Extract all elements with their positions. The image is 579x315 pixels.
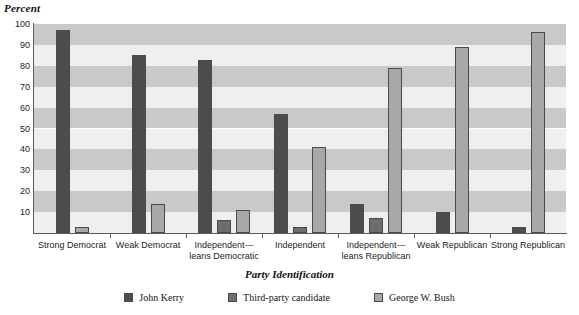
x-axis-tick bbox=[110, 233, 111, 238]
category-label-line: leans Democratic bbox=[178, 251, 270, 262]
bar bbox=[198, 60, 212, 233]
category-label-line: Strong Republican bbox=[482, 240, 574, 251]
bar bbox=[455, 47, 469, 233]
x-axis-tick bbox=[338, 233, 339, 238]
y-axis-tick-label: 90 bbox=[20, 40, 30, 50]
x-axis-tick bbox=[490, 233, 491, 238]
x-axis-tick bbox=[414, 233, 415, 238]
y-axis-title: Percent bbox=[4, 2, 40, 14]
bar bbox=[217, 220, 231, 233]
bar-group bbox=[110, 24, 186, 233]
y-axis-tick-label: 70 bbox=[20, 82, 30, 92]
y-axis-tick-label: 60 bbox=[20, 103, 30, 113]
y-axis-tick-label: 10 bbox=[20, 207, 30, 217]
bar bbox=[388, 68, 402, 233]
plot-area: 102030405060708090100 bbox=[34, 24, 566, 233]
legend-label: George W. Bush bbox=[389, 292, 455, 303]
legend-item: George W. Bush bbox=[374, 292, 455, 303]
x-axis-tick bbox=[186, 233, 187, 238]
bar bbox=[350, 204, 364, 233]
legend-swatch-icon bbox=[228, 293, 237, 302]
y-axis-tick-label: 50 bbox=[20, 124, 30, 134]
legend-item: Third-party candidate bbox=[228, 292, 330, 303]
bar bbox=[531, 32, 545, 233]
bar bbox=[132, 55, 146, 233]
bar bbox=[436, 212, 450, 233]
y-axis-tick-label: 20 bbox=[20, 186, 30, 196]
legend-item: John Kerry bbox=[124, 292, 184, 303]
x-axis-title: Party Identification bbox=[0, 268, 579, 280]
legend-swatch-icon bbox=[374, 293, 383, 302]
chart-figure: Percent 102030405060708090100 Party Iden… bbox=[0, 0, 579, 315]
bar-group bbox=[414, 24, 490, 233]
bar-group bbox=[262, 24, 338, 233]
x-axis-line bbox=[33, 233, 567, 234]
bar-group bbox=[34, 24, 110, 233]
legend-swatch-icon bbox=[124, 293, 133, 302]
bar-group bbox=[186, 24, 262, 233]
category-label: Strong Republican bbox=[482, 240, 574, 251]
bar bbox=[312, 147, 326, 233]
bar bbox=[236, 210, 250, 233]
bar-group bbox=[338, 24, 414, 233]
y-axis-line bbox=[33, 23, 34, 234]
bar bbox=[274, 114, 288, 233]
legend-label: Third-party candidate bbox=[243, 292, 330, 303]
bar bbox=[151, 204, 165, 233]
bar bbox=[369, 218, 383, 233]
y-axis-tick-label: 30 bbox=[20, 165, 30, 175]
bar bbox=[56, 30, 70, 233]
chart-legend: John KerryThird-party candidateGeorge W.… bbox=[0, 292, 579, 303]
y-axis-tick-label: 80 bbox=[20, 61, 30, 71]
category-label-line: leans Republican bbox=[330, 251, 422, 262]
x-axis-tick bbox=[262, 233, 263, 238]
bar-group bbox=[490, 24, 566, 233]
legend-label: John Kerry bbox=[139, 292, 184, 303]
y-axis-tick-label: 100 bbox=[15, 19, 30, 29]
y-axis-tick-label: 40 bbox=[20, 144, 30, 154]
